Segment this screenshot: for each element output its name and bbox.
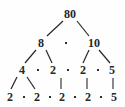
tree-node-5-L2: 5 [109, 64, 115, 76]
multiplication-dot-icon [49, 96, 51, 98]
tree-edge-8-to-4 [25, 50, 36, 63]
tree-node-2-L3: 2 [85, 91, 91, 103]
multiplication-dot-icon [74, 96, 76, 98]
tree-edge-4-to-2 [27, 77, 35, 89]
tree-node-2-L3: 2 [34, 91, 40, 103]
factor-tree-figure: 80810422522225 [0, 0, 125, 107]
multiplication-dot-icon [67, 69, 69, 71]
tree-node-4-L2: 4 [19, 64, 25, 76]
tree-node-80-L0: 80 [64, 8, 76, 20]
tree-edge-80-to-10 [77, 21, 89, 36]
multiplication-dot-icon [23, 96, 25, 98]
tree-edge-10-to-2 [83, 50, 89, 63]
multiplication-dot-icon [65, 42, 67, 44]
tree-edge-4-to-2 [11, 77, 17, 89]
tree-node-5-L3: 5 [111, 91, 117, 103]
multiplication-dot-icon [100, 96, 102, 98]
tree-edge-80-to-8 [47, 21, 63, 36]
multiplication-dot-icon [97, 69, 99, 71]
tree-node-2-L3: 2 [59, 91, 65, 103]
tree-edge-10-to-5 [99, 50, 110, 63]
tree-node-8-L1: 8 [38, 37, 44, 49]
tree-edge-8-to-2 [46, 50, 52, 63]
tree-node-2-L2: 2 [80, 64, 86, 76]
tree-node-10-L1: 10 [88, 37, 100, 49]
tree-node-2-L3: 2 [7, 91, 13, 103]
tree-node-2-L2: 2 [50, 64, 56, 76]
multiplication-dot-icon [37, 69, 39, 71]
